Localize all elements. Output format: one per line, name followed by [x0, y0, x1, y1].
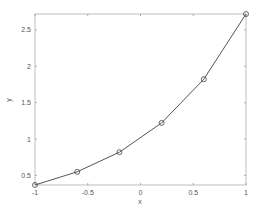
y-tick-label: 2.5	[21, 26, 31, 33]
y-tick-label: 1	[27, 136, 31, 143]
x-tick-label: -1	[32, 189, 38, 196]
x-tick-label: -0.5	[82, 189, 94, 196]
y-axis-label: y	[5, 98, 13, 102]
plot-area	[35, 14, 246, 185]
axis-ticks: -1-0.500.510.511.522.5	[21, 14, 248, 196]
x-tick-label: 0	[139, 189, 143, 196]
series-line	[35, 14, 246, 185]
y-tick-label: 1.5	[21, 99, 31, 106]
axes-frame	[35, 14, 246, 185]
y-tick-label: 2	[27, 63, 31, 70]
x-tick-label: 1	[244, 189, 248, 196]
x-tick-label: 0.5	[188, 189, 198, 196]
line-chart: -1-0.500.510.511.522.5 x y	[0, 0, 259, 217]
y-tick-label: 0.5	[21, 172, 31, 179]
x-axis-label: x	[138, 198, 142, 205]
data-series	[33, 12, 249, 188]
